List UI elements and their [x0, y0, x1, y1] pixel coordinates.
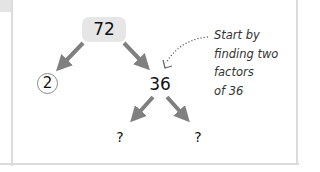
node-36: 36: [145, 76, 175, 93]
arrow-72-to-2: [61, 43, 83, 66]
unknown-factor-left: ?: [113, 130, 127, 144]
annotation-line: of 36: [214, 82, 278, 101]
annotation-note: Start by finding two factors of 36: [214, 26, 278, 100]
arrow-36-to-q2: [167, 97, 185, 117]
annotation-line: Start by: [214, 26, 278, 45]
root-value: 72: [93, 21, 115, 38]
prime-value: 2: [43, 76, 53, 91]
root-node-72: 72: [82, 17, 126, 42]
annotation-line: finding two: [214, 45, 278, 64]
arrow-36-to-q1: [135, 97, 153, 117]
prime-factor-2: 2: [37, 73, 58, 94]
annotation-dotted-arrow: [166, 37, 208, 63]
arrow-72-to-36: [124, 43, 145, 65]
unknown-factor-right: ?: [191, 130, 205, 144]
annotation-line: factors: [214, 63, 278, 82]
